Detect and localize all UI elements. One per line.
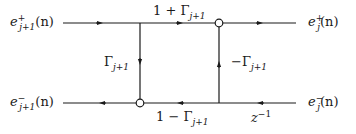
gain-bottom-label: 1 − Γj+1 bbox=[156, 110, 209, 127]
delay-label: z−1 bbox=[251, 110, 271, 124]
gain-left-vertical-label: Γj+1 bbox=[104, 55, 129, 72]
input-backward-label: e−j(n) bbox=[308, 94, 339, 112]
output-forward-label: e+j(n) bbox=[308, 14, 339, 32]
input-forward-label: e+j+1(n) bbox=[10, 14, 54, 32]
gain-top-label: 1 + Γj+1 bbox=[153, 4, 206, 21]
sum-node-backward bbox=[136, 99, 144, 107]
output-backward-label: e−j+1(n) bbox=[10, 94, 54, 112]
sum-node-forward bbox=[215, 19, 223, 27]
gain-right-vertical-label: −Γj+1 bbox=[231, 55, 267, 72]
